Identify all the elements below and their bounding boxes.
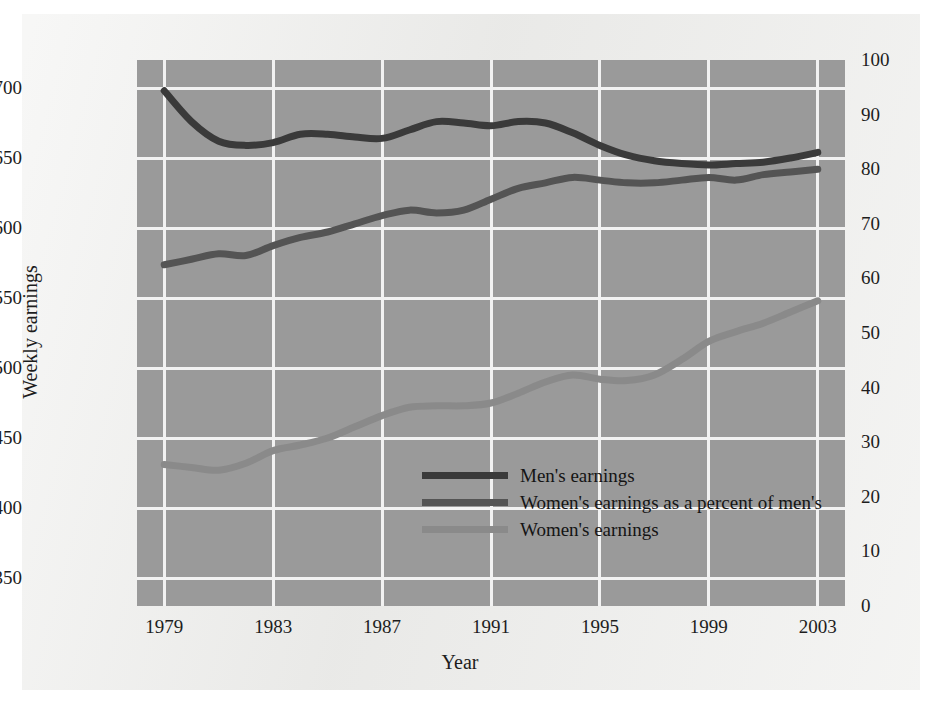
y-axis-tick-label: $500 [0,357,22,379]
legend-item: Women's earnings as a percent of men's [422,489,822,516]
legend-item: Women's earnings [422,516,822,543]
x-axis-tick-label: 1999 [690,616,728,638]
y-axis-tick-label: $400 [0,497,22,519]
y-axis-tick-label: $600 [0,217,22,239]
y2-axis-tick-label: 30 [861,431,880,453]
y2-axis-tick-label: 50 [861,322,880,344]
x-axis-tick-label: 1983 [254,616,292,638]
x-axis-tick-label: 1995 [581,616,619,638]
legend-swatch [422,526,508,533]
series-line [164,169,818,265]
y2-axis-tick-label: 0 [861,595,871,617]
y2-axis-tick-label: 70 [861,213,880,235]
x-axis-tick-label: 2003 [799,616,837,638]
y2-axis-tick-label: 10 [861,540,880,562]
y-axis-tick-label: $650 [0,147,22,169]
y-axis-tick-label: $450 [0,427,22,449]
y2-axis-tick-label: 40 [861,377,880,399]
y2-axis-tick-label: 80 [861,158,880,180]
y2-axis-tick-label: 60 [861,267,880,289]
legend-swatch [422,472,508,479]
figure-panel: Weekly earnings Year $350$400$450$500$55… [22,14,920,690]
x-axis-tick-label: 1991 [472,616,510,638]
y-axis-tick-label: $700 [0,77,22,99]
legend-item: Men's earnings [422,462,822,489]
legend-label: Women's earnings [520,519,659,541]
plot-area: Men's earningsWomen's earnings as a perc… [137,60,845,606]
x-axis-tick-label: 1987 [363,616,401,638]
y-axis-tick-label: $350 [0,567,22,589]
y2-axis-tick-label: 100 [861,49,890,71]
series-line [164,301,818,471]
y2-axis-tick-label: 20 [861,486,880,508]
legend-swatch [422,499,508,506]
y2-axis-tick-label: 90 [861,104,880,126]
chart-legend: Men's earningsWomen's earnings as a perc… [422,462,822,543]
x-axis-tick-label: 1979 [145,616,183,638]
series-line [164,91,818,165]
legend-label: Women's earnings as a percent of men's [520,492,822,514]
x-axis-label: Year [442,651,479,674]
legend-label: Men's earnings [520,465,635,487]
y-axis-tick-label: $550 [0,287,22,309]
